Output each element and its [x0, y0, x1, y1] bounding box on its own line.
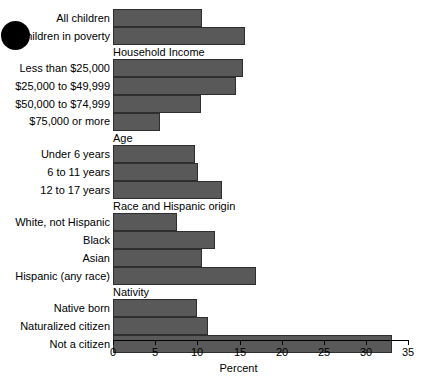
category-label: Asian: [82, 252, 110, 264]
category-label: Under 6 years: [41, 148, 110, 160]
bar-naturalized-citizen: [113, 317, 208, 335]
bar-income-under-25k: [113, 59, 243, 77]
category-label: 12 to 17 years: [40, 184, 110, 196]
bar-income-25k-49k: [113, 77, 236, 95]
x-axis-tick-label: 5: [135, 346, 175, 358]
x-axis-tick: [366, 340, 367, 345]
x-axis-tick: [324, 340, 325, 345]
bar-income-50k-74k: [113, 95, 201, 113]
category-label: Black: [83, 234, 110, 246]
bar-age-12-to-17: [113, 181, 222, 199]
bar-asian: [113, 249, 202, 267]
group-header-nativity: Nativity: [113, 286, 152, 298]
category-label: Less than $25,000: [19, 62, 110, 74]
x-axis-title: Percent: [0, 362, 435, 374]
group-header-household-income: Household Income: [113, 46, 208, 58]
category-label: All children: [56, 12, 110, 24]
category-label: $50,000 to $74,999: [15, 98, 110, 110]
category-label: Children in poverty: [18, 30, 110, 42]
plot-area: All children Children in poverty Less th…: [0, 0, 435, 382]
category-label: $75,000 or more: [29, 115, 110, 127]
x-axis-tick-label: 30: [346, 346, 386, 358]
x-axis-tick: [113, 340, 114, 345]
x-axis-tick-label: 20: [262, 346, 302, 358]
bar-all-children: [113, 9, 202, 27]
bar-native-born: [113, 299, 197, 317]
x-axis-tick: [197, 340, 198, 345]
bar-age-under-6: [113, 145, 195, 163]
x-axis-tick-label: 0: [93, 346, 133, 358]
category-label: $25,000 to $49,999: [15, 80, 110, 92]
x-axis-tick-label: 35: [388, 346, 428, 358]
category-label: Hispanic (any race): [15, 270, 110, 282]
category-label: Native born: [54, 302, 110, 314]
group-header-race: Race and Hispanic origin: [113, 200, 238, 212]
x-axis-tick-label: 15: [220, 346, 260, 358]
bar-income-75k-plus: [113, 113, 160, 131]
bar-hispanic-any-race: [113, 267, 256, 285]
x-axis-line: [113, 340, 409, 341]
category-label: 6 to 11 years: [47, 166, 110, 178]
bar-white-not-hispanic: [113, 213, 177, 231]
group-header-age: Age: [113, 132, 136, 144]
x-axis-tick: [408, 340, 409, 345]
category-label: Naturalized citizen: [20, 320, 110, 332]
category-label: White, not Hispanic: [15, 216, 110, 228]
x-axis-tick: [240, 340, 241, 345]
x-axis-tick-label: 10: [177, 346, 217, 358]
bar-children-in-poverty: [113, 27, 245, 45]
x-axis-tick-label: 25: [304, 346, 344, 358]
x-axis-tick: [155, 340, 156, 345]
bar-black: [113, 231, 215, 249]
bar-age-6-to-11: [113, 163, 198, 181]
chart-container: All children Children in poverty Less th…: [0, 0, 435, 382]
x-axis-title-text: Percent: [220, 362, 258, 374]
x-axis-tick: [282, 340, 283, 345]
